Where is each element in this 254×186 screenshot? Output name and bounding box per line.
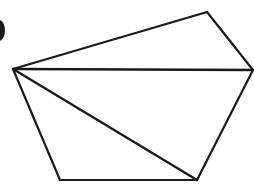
diagonals <box>13 69 253 180</box>
diagonal-a-c <box>13 69 253 70</box>
edge-e-a <box>13 69 60 180</box>
edge-c-d <box>197 70 253 180</box>
edge-a-b <box>13 12 207 69</box>
pentagon-outline <box>13 12 253 180</box>
partial-circle-mark <box>0 20 5 41</box>
edge-b-c <box>207 12 253 70</box>
pentagon-diagram <box>0 0 254 186</box>
diagonal-a-d <box>13 69 197 180</box>
